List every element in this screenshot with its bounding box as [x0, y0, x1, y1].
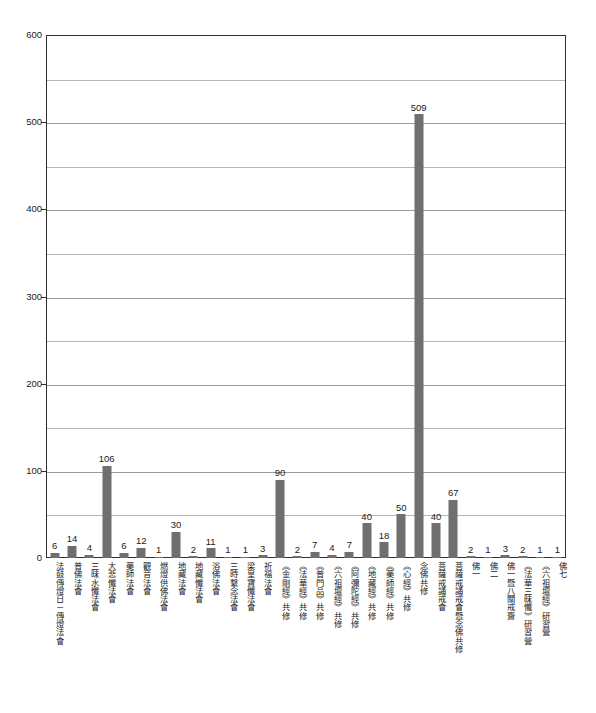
x-axis-category-label: 《心經》共修: [393, 562, 410, 612]
bar-value-label: 1: [243, 545, 248, 555]
bar[interactable]: [189, 556, 198, 558]
x-axis-category-label: 菩薩戒誦戒會暨念佛共修: [445, 562, 462, 653]
bar[interactable]: [397, 514, 406, 558]
bar-value-label: 106: [99, 454, 115, 464]
x-axis-category-label: 藥師法會: [115, 562, 132, 595]
bar[interactable]: [171, 532, 180, 558]
x-axis-category-label: 大悲懺法會: [98, 562, 115, 604]
x-axis-category-label: 《金剛經》共修: [271, 562, 288, 620]
x-axis-category-label: 祈福法會: [254, 562, 271, 595]
bar[interactable]: [327, 555, 336, 558]
bar-value-label: 4: [329, 543, 334, 553]
x-axis-category-label: 《六祖壇經》研習營: [531, 562, 548, 637]
x-axis-category-label: 梁皇寶懺法會: [237, 562, 254, 612]
bar[interactable]: [518, 556, 527, 558]
bar-value-label: 2: [191, 545, 196, 555]
bar[interactable]: [431, 523, 440, 558]
bar[interactable]: [379, 542, 388, 558]
bar[interactable]: [501, 555, 510, 558]
x-axis-category-label: 普佛法會: [63, 562, 80, 595]
x-axis-category-label: 觀音法會: [133, 562, 150, 595]
bar[interactable]: [535, 557, 544, 559]
y-axis-tick-label: 400: [2, 205, 42, 215]
bar-value-label: 2: [295, 545, 300, 555]
bar[interactable]: [414, 114, 423, 558]
x-axis-category-label: 佛二: [479, 562, 496, 579]
x-axis-category-label: 佛七: [549, 562, 566, 579]
bar[interactable]: [223, 557, 232, 559]
bar-value-label: 14: [67, 534, 78, 544]
bar-value-label: 1: [537, 545, 542, 555]
bar[interactable]: [345, 552, 354, 558]
x-axis-category-label: 《藥師經》共修: [375, 562, 392, 620]
x-axis-labels-group: 法鼓傳燈日－傳燈法會普佛法會三昧水懺法會大悲懺法會藥師法會觀音法會燃燈供佛法會地…: [46, 562, 566, 712]
bar[interactable]: [50, 553, 59, 558]
bar[interactable]: [154, 557, 163, 559]
y-axis-tick-label: 500: [2, 117, 42, 127]
x-axis-category-label: 《法華經》共修: [289, 562, 306, 620]
bar-value-label: 7: [312, 540, 317, 550]
bar-chart: 0100200300400500600 61441066121302111139…: [0, 0, 596, 713]
x-axis-category-label: 浴佛法會: [202, 562, 219, 595]
bar[interactable]: [119, 553, 128, 558]
bars-group: 6144106612130211113902747401850509406721…: [46, 35, 566, 558]
x-axis-category-label: 菩薩戒誦戒會: [427, 562, 444, 612]
bar[interactable]: [293, 556, 302, 558]
bar[interactable]: [275, 480, 284, 558]
bar-value-label: 40: [431, 512, 442, 522]
x-axis-category-label: 念佛共修: [410, 562, 427, 595]
bar-value-label: 1: [555, 545, 560, 555]
x-axis-category-label: 《地藏經》共修: [358, 562, 375, 620]
x-axis-category-label: 《法華三昧懺》研習營: [514, 562, 531, 645]
y-axis-tick-label: 600: [2, 30, 42, 40]
x-axis-category-label: 佛一: [462, 562, 479, 579]
bar-value-label: 1: [156, 545, 161, 555]
x-axis-category-label: 燃燈供佛法會: [150, 562, 167, 612]
bar-value-label: 30: [171, 520, 182, 530]
x-axis-category-label: 地藏懺法會: [185, 562, 202, 604]
x-axis-category-label: 《普門品》共修: [306, 562, 323, 620]
bar[interactable]: [206, 548, 215, 558]
bar-value-label: 90: [275, 468, 286, 478]
bar-value-label: 6: [121, 541, 126, 551]
bar[interactable]: [258, 555, 267, 558]
bar-value-label: 1: [485, 545, 490, 555]
x-axis-category-label: 佛一暨八關戒齋: [497, 562, 514, 620]
bar[interactable]: [483, 557, 492, 559]
bar[interactable]: [241, 557, 250, 559]
y-axis-tick-label: 100: [2, 466, 42, 476]
x-axis-category-label: 三時繫念法會: [219, 562, 236, 612]
bar-value-label: 4: [87, 543, 92, 553]
y-axis-tick-label: 0: [2, 553, 42, 563]
bar[interactable]: [137, 548, 146, 558]
bar-value-label: 3: [503, 544, 508, 554]
bar-value-label: 6: [52, 541, 57, 551]
bar[interactable]: [553, 557, 562, 559]
bar[interactable]: [67, 546, 76, 558]
bar-value-label: 2: [468, 545, 473, 555]
bar[interactable]: [466, 556, 475, 558]
bar-value-label: 40: [361, 512, 372, 522]
bar-value-label: 1: [225, 545, 230, 555]
bar[interactable]: [449, 500, 458, 558]
x-axis-category-label: 地藏法會: [167, 562, 184, 595]
bar[interactable]: [85, 555, 94, 558]
bar[interactable]: [362, 523, 371, 558]
x-axis-category-label: 三昧水懺法會: [81, 562, 98, 612]
bar-value-label: 509: [411, 103, 427, 113]
bar-value-label: 50: [396, 503, 407, 513]
bar-value-label: 3: [260, 544, 265, 554]
y-axis-tick-label: 300: [2, 292, 42, 302]
bar[interactable]: [102, 466, 111, 558]
x-axis-category-label: 《阿彌陀經》共修: [341, 562, 358, 628]
x-axis-category-label: 《六祖壇經》共修: [323, 562, 340, 628]
bar-value-label: 7: [347, 540, 352, 550]
bar[interactable]: [310, 552, 319, 558]
bar-value-label: 11: [206, 537, 216, 547]
bar-value-label: 18: [379, 531, 390, 541]
bar-value-label: 67: [448, 488, 459, 498]
y-axis-tick-label: 200: [2, 379, 42, 389]
bar-value-label: 12: [136, 536, 147, 546]
x-axis-category-label: 法鼓傳燈日－傳燈法會: [46, 562, 63, 645]
bar-value-label: 2: [520, 545, 525, 555]
